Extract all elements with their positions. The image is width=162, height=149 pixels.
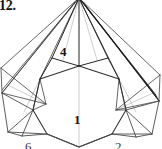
face-label-2: 2 [115, 140, 122, 149]
figure-number-caption: 12. [0, 0, 16, 14]
face-label-1: 1 [74, 113, 81, 126]
face-label-6: 6 [25, 140, 32, 149]
figure-container: 12. 4 1 6 2 [0, 0, 162, 149]
face-label-4: 4 [60, 45, 67, 58]
figure-background [0, 0, 162, 149]
geometric-line-drawing [0, 0, 162, 149]
